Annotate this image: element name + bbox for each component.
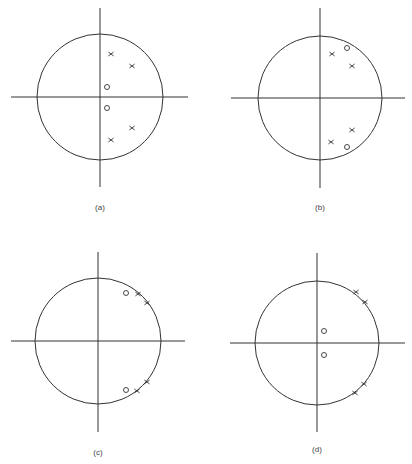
pole-zero-plot-b bbox=[231, 8, 405, 188]
plot-label-c: (c) bbox=[93, 448, 103, 457]
plot-label-a: (a) bbox=[95, 203, 105, 212]
zero-o-marker bbox=[322, 353, 327, 358]
pole-x-marker bbox=[328, 140, 333, 144]
zero-o-marker bbox=[124, 291, 129, 296]
pole-x-marker bbox=[108, 138, 113, 142]
pole-zero-plot-a bbox=[11, 8, 188, 187]
pole-x-marker bbox=[349, 128, 354, 132]
pole-x-marker bbox=[134, 389, 139, 393]
pole-zero-figure: (a) (b) (c) (d) bbox=[0, 0, 412, 464]
pole-x-marker bbox=[108, 52, 113, 56]
pole-x-marker bbox=[361, 382, 366, 386]
pole-zero-plot-c bbox=[11, 252, 185, 432]
pole-x-marker bbox=[353, 290, 358, 294]
plot-label-b: (b) bbox=[315, 203, 325, 212]
pole-x-marker bbox=[329, 52, 334, 56]
zero-o-marker bbox=[105, 106, 110, 111]
plot-label-d: (d) bbox=[312, 445, 322, 454]
zero-o-marker bbox=[105, 85, 110, 90]
pole-x-marker bbox=[129, 126, 134, 130]
zero-o-marker bbox=[322, 329, 327, 334]
pole-x-marker bbox=[349, 64, 354, 68]
pole-x-marker bbox=[129, 64, 134, 68]
pole-zero-plot-d bbox=[230, 253, 405, 432]
zero-o-marker bbox=[345, 145, 350, 150]
zero-o-marker bbox=[124, 388, 129, 393]
zero-o-marker bbox=[345, 46, 350, 51]
